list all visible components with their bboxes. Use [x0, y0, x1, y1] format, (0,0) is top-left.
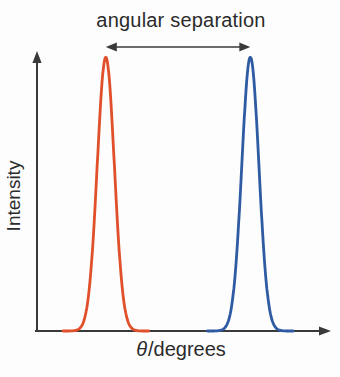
diffraction-peaks-figure: angular separation Intensity θ/degrees [0, 0, 340, 377]
x-axis-arrowhead-icon [319, 326, 331, 335]
peak-1-orange-curve [63, 57, 149, 331]
y-axis-arrowhead-icon [32, 51, 41, 63]
peak-2-blue-curve [208, 57, 294, 331]
theta-symbol: θ [136, 338, 148, 360]
intensity-vs-theta-chart [0, 0, 340, 377]
arrow-left-head-icon [106, 43, 117, 52]
x-axis-label: θ/degrees [22, 338, 340, 361]
arrow-right-head-icon [239, 43, 250, 52]
y-axis-label: Intensity [3, 161, 25, 232]
x-axis-label-units: /degrees [148, 338, 226, 360]
